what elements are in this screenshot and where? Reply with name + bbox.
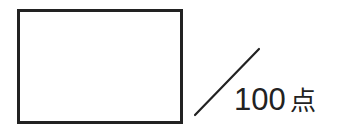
max-points: 100 <box>234 82 286 117</box>
max-score-label: 100点 <box>234 84 316 115</box>
points-unit: 点 <box>290 86 316 116</box>
